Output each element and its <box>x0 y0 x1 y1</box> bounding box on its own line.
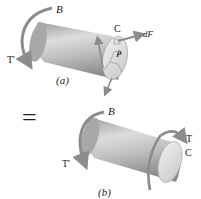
shaft-b <box>77 116 187 186</box>
label-t-b: T <box>186 133 192 144</box>
label-rho: ρ <box>116 47 122 57</box>
label-t-prime-b: T' <box>62 158 70 169</box>
caption-a: (a) <box>56 74 69 87</box>
equals-sign: = <box>22 103 37 132</box>
caption-b: (b) <box>98 186 111 199</box>
label-b-a: B <box>56 3 63 15</box>
torsion-diagram: B C dF ρ T' (a) = B T C T' (b) <box>0 0 201 199</box>
label-c-a: C <box>114 23 121 34</box>
label-b-b: B <box>108 105 115 117</box>
label-t-prime-a: T' <box>7 54 15 65</box>
label-df: dF <box>143 29 154 39</box>
label-c-b: C <box>185 147 192 158</box>
shear-arrow-down <box>106 78 112 92</box>
